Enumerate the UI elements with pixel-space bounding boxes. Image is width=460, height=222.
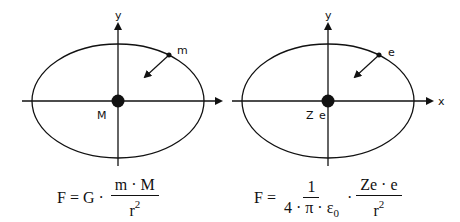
- y-axis-label-right: y: [325, 10, 332, 21]
- denominator-main: 4 · π · ε: [284, 199, 333, 216]
- y-axis-label-left: y: [115, 10, 122, 21]
- orbiting-mass-label: m: [177, 45, 188, 56]
- coulomb-formula: F = 1 4 · π · ε0 · Ze · e r2: [254, 176, 405, 220]
- nucleus-label: Z e: [306, 110, 327, 121]
- formula-lhs: F: [254, 189, 263, 207]
- central-mass-M: [112, 95, 125, 108]
- fraction1-numerator: 1: [303, 178, 319, 198]
- formula-fraction: m · M r2: [111, 176, 159, 220]
- formula-fraction-charges: Ze · e r2: [356, 176, 401, 220]
- force-arrow-left: [145, 55, 169, 77]
- formula-equals: =: [267, 189, 276, 207]
- formula-denominator: r2: [125, 196, 144, 220]
- x-axis-label-right: x: [438, 96, 445, 107]
- denominator-base: r: [373, 202, 378, 219]
- denominator-base: r: [129, 202, 134, 219]
- electron-label: e: [388, 47, 395, 58]
- formula-dot: ·: [347, 189, 352, 207]
- gravity-formula: F = G · m · M r2: [57, 176, 162, 220]
- formula-numerator: m · M: [111, 176, 159, 196]
- denominator-exponent: 2: [135, 198, 141, 210]
- force-arrow-right: [355, 55, 379, 77]
- fraction1-denominator: 4 · π · ε0: [280, 198, 343, 218]
- fraction2-denominator: r2: [369, 196, 388, 220]
- epsilon-subscript: 0: [333, 207, 339, 219]
- formula-fraction-coulomb-constant: 1 4 · π · ε0: [280, 178, 343, 218]
- denominator-exponent: 2: [379, 198, 385, 210]
- formula-lhs: F: [57, 189, 66, 207]
- central-mass-label: M: [97, 110, 107, 121]
- fraction2-numerator: Ze · e: [356, 176, 401, 196]
- nucleus-Ze: [322, 95, 335, 108]
- formula-dot: ·: [99, 189, 104, 207]
- coulomb-orbit-diagram: [232, 24, 432, 166]
- gravity-orbit-diagram: [22, 24, 221, 166]
- formula-equals: =: [70, 189, 79, 207]
- formula-constant-G: G: [83, 189, 95, 207]
